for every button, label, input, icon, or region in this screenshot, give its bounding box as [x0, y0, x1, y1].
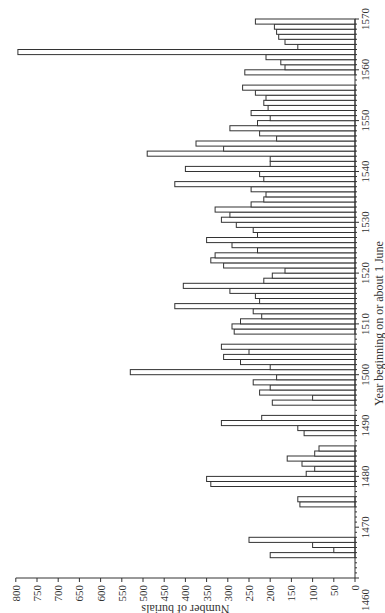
bar-1519 — [272, 273, 355, 278]
bar-1535 — [266, 192, 355, 197]
value-tick-label: 650 — [73, 585, 85, 602]
bar-1482 — [302, 461, 355, 466]
year-tick-label: 1520 — [359, 262, 371, 285]
bar-1524 — [258, 248, 356, 253]
bar-1565 — [285, 39, 355, 44]
bar-1533 — [251, 202, 355, 207]
value-tick-label: 50 — [328, 585, 340, 597]
bar-1516 — [230, 288, 355, 293]
year-tick-label: 1560 — [359, 58, 371, 81]
value-tick-label: 400 — [179, 585, 191, 602]
bar-1545 — [196, 141, 355, 146]
bar-1542 — [270, 156, 355, 161]
value-tick-label: 0 — [349, 585, 361, 591]
year-tick-label: 1510 — [359, 312, 371, 335]
value-tick-label: 700 — [52, 585, 64, 602]
bar-1551 — [251, 111, 355, 116]
bar-1526 — [207, 238, 355, 243]
year-tick-label: 1480 — [359, 465, 371, 488]
value-tick-label: 200 — [264, 585, 276, 602]
bar-1465 — [334, 548, 355, 553]
bar-1499 — [277, 375, 355, 380]
bar-1517 — [183, 283, 355, 288]
bar-1502 — [241, 360, 356, 365]
bar-1561 — [281, 60, 355, 65]
bar-1521 — [224, 263, 355, 268]
bar-1560 — [285, 65, 355, 70]
bar-1495 — [313, 395, 355, 400]
year-axis-title: Year beginning on or about 1 June — [372, 241, 385, 406]
value-tick-label: 750 — [31, 585, 43, 602]
bar-1569 — [255, 19, 355, 24]
bar-1532 — [215, 207, 355, 212]
bar-1503 — [224, 354, 355, 359]
bar-1491 — [262, 415, 355, 420]
bar-1510 — [241, 319, 356, 324]
bar-1474 — [300, 502, 355, 507]
bar-1464 — [270, 553, 355, 558]
bar-1562 — [266, 55, 355, 60]
bar-1467 — [249, 537, 355, 542]
bar-1514 — [260, 299, 355, 304]
value-tick-label: 100 — [307, 585, 319, 602]
value-tick-label: 350 — [201, 585, 213, 602]
bar-1525 — [232, 243, 355, 248]
year-tick-label: 1570 — [359, 8, 371, 31]
bar-1523 — [215, 253, 355, 258]
value-tick-label: 150 — [285, 585, 297, 602]
bar-1481 — [315, 466, 355, 471]
bar-1543 — [147, 151, 355, 156]
bar-1478 — [211, 481, 355, 486]
bar-1522 — [211, 258, 355, 263]
bar-1556 — [243, 85, 355, 90]
bar-1534 — [264, 197, 355, 202]
bar-1484 — [315, 451, 355, 456]
bar-1490 — [221, 421, 355, 426]
bar-1483 — [287, 456, 355, 461]
bar-1531 — [230, 212, 355, 217]
bar-1536 — [251, 187, 355, 192]
bar-1539 — [260, 172, 355, 177]
bar-1568 — [274, 24, 355, 29]
bar-1494 — [272, 400, 355, 405]
value-tick-label: 500 — [137, 585, 149, 602]
bar-1538 — [264, 177, 355, 182]
bar-1553 — [264, 100, 355, 105]
bar-1549 — [258, 121, 356, 126]
bar-1540 — [185, 166, 355, 171]
value-tick-label: 300 — [222, 585, 234, 602]
bar-1475 — [298, 497, 355, 502]
bar-1512 — [253, 309, 355, 314]
bar-1550 — [270, 116, 355, 121]
bar-1508 — [234, 329, 355, 334]
bar-1554 — [266, 95, 355, 100]
bar-1529 — [236, 222, 355, 227]
bar-1537 — [175, 182, 355, 187]
bar-1544 — [224, 146, 355, 151]
bar-1547 — [260, 131, 355, 136]
value-tick-label: 450 — [158, 585, 170, 602]
bar-1552 — [268, 105, 355, 110]
value-tick-label: 250 — [243, 585, 255, 602]
bar-1480 — [306, 471, 355, 476]
year-tick-label: 1550 — [359, 109, 371, 132]
bar-1496 — [260, 390, 355, 395]
value-tick-label: 550 — [116, 585, 128, 602]
value-tick-label: 600 — [95, 585, 107, 602]
bar-1548 — [230, 126, 355, 131]
bar-1527 — [258, 232, 356, 237]
bar-1498 — [253, 380, 355, 385]
bar-1505 — [221, 344, 355, 349]
bar-1555 — [255, 90, 355, 95]
bar-1509 — [232, 324, 355, 329]
bar-1528 — [253, 227, 355, 232]
bar-1566 — [279, 34, 355, 39]
value-tick-label: 800 — [10, 585, 22, 602]
bar-1520 — [285, 268, 355, 273]
bar-1500 — [130, 370, 355, 375]
bar-1559 — [245, 70, 355, 75]
bar-1564 — [298, 44, 355, 49]
bar-1563 — [18, 50, 355, 55]
year-tick-label: 1470 — [359, 516, 371, 539]
burials-bar-chart: 1460147014801490150015101520153015401550… — [0, 0, 385, 613]
